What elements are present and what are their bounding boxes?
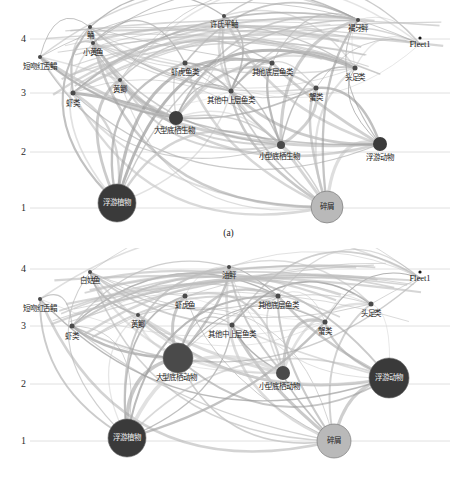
node-小型底栖动物[interactable] xyxy=(276,366,290,380)
node-label-白姑鱼: 白姑鱼 xyxy=(80,277,100,285)
node-头足类[interactable] xyxy=(353,66,358,71)
node-虾类[interactable] xyxy=(71,91,76,96)
node-虾虎鱼[interactable] xyxy=(183,294,188,299)
node-label-头足类: 头足类 xyxy=(361,310,381,318)
node-label-其他中上层鱼类: 其他中上层鱼类 xyxy=(208,331,256,339)
node-label-小黄鱼: 小黄鱼 xyxy=(83,49,103,57)
edge xyxy=(316,39,420,88)
node-小黄鱼[interactable] xyxy=(91,41,95,45)
node-label-大型底栖生物: 大型底栖生物 xyxy=(154,127,195,135)
node-其他中上层鱼类[interactable] xyxy=(229,89,234,94)
axis-tick-label: 3 xyxy=(12,320,26,331)
node-label-鲬: 鲬 xyxy=(87,32,94,40)
axis-tick-label: 1 xyxy=(12,202,26,213)
fleet-label: Fleet1 xyxy=(409,273,430,283)
node-label-油鲆: 油鲆 xyxy=(222,272,236,280)
node-褐牙鲆[interactable] xyxy=(356,18,360,22)
node-label-小型底栖动物: 小型底栖动物 xyxy=(259,383,300,391)
panel-a-caption: (a) xyxy=(0,228,457,238)
node-label-褐牙鲆: 褐牙鲆 xyxy=(348,25,368,33)
node-label-其他底层鱼类: 其他底层鱼类 xyxy=(252,69,293,77)
fleet-label: Fleet1 xyxy=(409,39,430,49)
axis-tick-label: 3 xyxy=(12,87,26,98)
axis-tick-label: 1 xyxy=(12,435,26,446)
food-web-figure: (a) 4321浮游植物碎屑浮游动物小型底栖生物大型底栖生物虾类其他中上层鱼类蟹… xyxy=(0,0,457,495)
node-蟹类[interactable] xyxy=(323,320,328,325)
node-短吻红舌鳎[interactable] xyxy=(38,297,42,301)
node-label-浮游动物: 浮游动物 xyxy=(375,374,402,382)
node-label-虾类: 虾类 xyxy=(65,333,79,341)
node-白姑鱼[interactable] xyxy=(88,270,92,274)
node-label-短吻红舌鳎: 短吻红舌鳎 xyxy=(23,305,57,313)
node-大型底栖生物[interactable] xyxy=(169,111,183,125)
edge-layer xyxy=(40,0,443,215)
node-头足类[interactable] xyxy=(369,302,374,307)
panel-a: (a) 4321浮游植物碎屑浮游动物小型底栖生物大型底栖生物虾类其他中上层鱼类蟹… xyxy=(0,0,457,248)
node-label-蟹类: 蟹类 xyxy=(318,328,332,336)
node-label-其他中上层鱼类: 其他中上层鱼类 xyxy=(207,97,255,105)
node-虾类[interactable] xyxy=(70,324,75,329)
axis-tick-label: 4 xyxy=(12,263,26,274)
node-鲬[interactable] xyxy=(88,25,92,29)
node-label-虾虎鱼类: 虾虎鱼类 xyxy=(171,69,198,77)
node-label-大型底栖动物: 大型底栖动物 xyxy=(156,374,197,382)
node-油鲆[interactable] xyxy=(227,265,231,269)
node-小型底栖生物[interactable] xyxy=(277,141,285,149)
node-其他中上层鱼类[interactable] xyxy=(230,323,235,328)
node-其他底层鱼类[interactable] xyxy=(276,294,281,299)
panel-b-canvas xyxy=(0,248,457,495)
node-蟹类[interactable] xyxy=(314,86,319,91)
node-label-许氏平鲉: 许氏平鲉 xyxy=(210,21,237,29)
panel-b: (b) 4321浮游植物碎屑浮游动物小型底栖动物大型底栖动物虾类其他中上层鱼类蟹… xyxy=(0,248,457,495)
node-label-黄鲫: 黄鲫 xyxy=(131,321,145,329)
node-label-虾虎鱼: 虾虎鱼 xyxy=(175,302,195,310)
node-浮游动物[interactable] xyxy=(373,137,387,151)
node-黄鲫[interactable] xyxy=(118,78,122,82)
node-黄鲫[interactable] xyxy=(136,313,140,317)
axis-tick-label: 2 xyxy=(12,146,26,157)
axis-tick-label: 4 xyxy=(12,33,26,44)
node-许氏平鲉[interactable] xyxy=(222,14,226,18)
node-label-头足类: 头足类 xyxy=(345,74,365,82)
node-label-黄鲫: 黄鲫 xyxy=(113,86,127,94)
edge xyxy=(316,88,380,144)
node-label-浮游动物: 浮游动物 xyxy=(366,154,393,162)
node-其他底层鱼类[interactable] xyxy=(270,61,275,66)
node-大型底栖动物[interactable] xyxy=(163,343,193,373)
node-label-碎屑: 碎屑 xyxy=(320,203,334,211)
node-label-碎屑: 碎屑 xyxy=(327,437,341,445)
node-label-其他底层鱼类: 其他底层鱼类 xyxy=(258,302,299,310)
node-label-短吻红舌鳎: 短吻红舌鳎 xyxy=(23,63,57,71)
node-label-浮游植物: 浮游植物 xyxy=(113,434,140,442)
node-label-蟹类: 蟹类 xyxy=(309,94,323,102)
node-label-虾类: 虾类 xyxy=(66,100,80,108)
axis-tick-label: 2 xyxy=(12,378,26,389)
node-label-浮游植物: 浮游植物 xyxy=(103,199,130,207)
node-label-小型底栖生物: 小型底栖生物 xyxy=(259,153,300,161)
node-虾虎鱼类[interactable] xyxy=(183,61,188,66)
panel-a-canvas xyxy=(0,0,457,248)
node-短吻红舌鳎[interactable] xyxy=(38,55,42,59)
